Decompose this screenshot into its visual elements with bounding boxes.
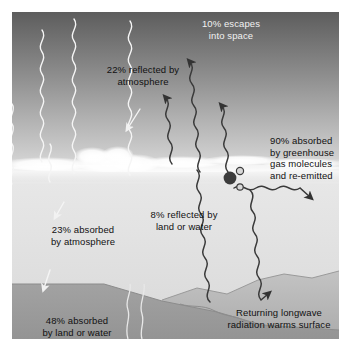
label-reflected-by-land-or-water: 8% reflected by land or water <box>129 209 239 232</box>
label-absorbed-by-atmosphere: 23% absorbed by atmosphere <box>28 224 138 247</box>
diagram-scene: 10% escapes into space 22% reflected by … <box>12 12 339 339</box>
greenhouse-effect-figure: 10% escapes into space 22% reflected by … <box>0 0 349 350</box>
solar-ray-3 <box>72 19 75 173</box>
solar-ray-2 <box>40 30 43 162</box>
label-reflected-by-atmosphere: 22% reflected by atmosphere <box>83 64 203 87</box>
absorbed-23-arrow <box>56 202 64 216</box>
label-escapes-into-space: 10% escapes into space <box>175 18 287 41</box>
solar-ray-1 <box>12 104 13 184</box>
label-returning-longwave-radiation: Returning longwave radiation warms surfa… <box>206 307 339 330</box>
escape-ray-secondary <box>166 98 173 164</box>
reflected-22-arrow <box>128 109 140 128</box>
label-absorbed-by-land-or-water: 48% absorbed by land or water <box>22 315 132 338</box>
reflected-8-ray <box>197 170 210 302</box>
label-absorbed-by-greenhouse-gas: 90% absorbed by greenhouse gas molecules… <box>270 135 339 181</box>
reemitted-side-ray <box>234 186 310 197</box>
outgoing-longwave-rays <box>166 62 310 302</box>
